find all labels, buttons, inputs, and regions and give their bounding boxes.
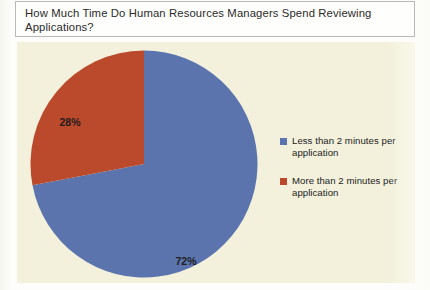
legend-item-more-than-2-minutes[interactable]: More than 2 minutes per application <box>280 175 408 198</box>
pie-chart: 72% 28% <box>30 50 258 278</box>
legend-label-less-than-2-minutes: Less than 2 minutes per application <box>292 135 408 158</box>
pie-chart-svg: 72% 28% <box>30 50 258 278</box>
legend-item-less-than-2-minutes[interactable]: Less than 2 minutes per application <box>280 135 408 158</box>
pie-label-72: 72% <box>175 255 197 267</box>
pie-slices <box>30 51 257 278</box>
legend-swatch-blue <box>280 138 287 145</box>
page-title: How Much Time Do Human Resources Manager… <box>25 6 410 35</box>
legend-label-more-than-2-minutes: More than 2 minutes per application <box>292 175 408 198</box>
legend-swatch-orange <box>280 178 287 185</box>
chart-legend: Less than 2 minutes per application More… <box>280 135 408 215</box>
chart-plot-area: 72% 28% Less than 2 minutes per applicat… <box>17 42 415 283</box>
pie-slice-more-than-2-minutes <box>30 51 144 186</box>
chart-title-box: How Much Time Do Human Resources Manager… <box>15 1 415 37</box>
scanned-page: How Much Time Do Human Resources Manager… <box>0 0 430 290</box>
pie-label-28: 28% <box>59 116 81 128</box>
